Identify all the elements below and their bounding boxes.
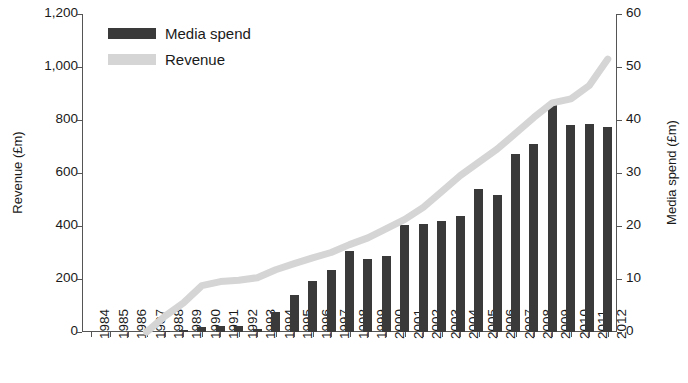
y-axis-right-tickmark: [617, 14, 622, 15]
x-axis-tickmark: [368, 332, 369, 337]
x-axis-tickmark: [128, 332, 129, 337]
x-axis-tickmark: [294, 332, 295, 337]
y-axis-right-tickmark: [617, 120, 622, 121]
y-axis-left-tickmark: [77, 332, 82, 333]
x-axis-tickmark: [110, 332, 111, 337]
legend-swatch-revenue: [108, 54, 156, 65]
legend-label-media-spend: Media spend: [165, 25, 251, 42]
x-axis-tickmark: [220, 332, 221, 337]
x-axis-tickmark: [257, 332, 258, 337]
x-axis-tickmark: [571, 332, 572, 337]
x-axis-tickmark: [350, 332, 351, 337]
y-axis-right-tickmark: [617, 67, 622, 68]
y-axis-right-tickmark: [617, 226, 622, 227]
y-axis-left-tick-label: 0: [0, 323, 78, 338]
y-axis-left-tick-label: 600: [0, 164, 78, 179]
x-axis-tickmark: [405, 332, 406, 337]
x-axis-tickmark: [534, 332, 535, 337]
x-axis-tickmark: [313, 332, 314, 337]
y-axis-left-tick-label: 400: [0, 217, 78, 232]
x-axis-tickmark: [589, 332, 590, 337]
x-axis-tickmark: [497, 332, 498, 337]
x-axis-tickmark: [331, 332, 332, 337]
y-axis-right-tick-label: 20: [626, 217, 666, 232]
x-axis-tickmark: [276, 332, 277, 337]
y-axis-right-tickmark: [617, 173, 622, 174]
y-axis-right-tickmark: [617, 332, 622, 333]
x-axis-tickmark: [202, 332, 203, 337]
legend-item-revenue: Revenue: [108, 46, 251, 72]
y-axis-right-tick-label: 0: [626, 323, 666, 338]
x-axis-tickmark: [516, 332, 517, 337]
x-axis-tickmark: [386, 332, 387, 337]
x-axis-tickmark: [165, 332, 166, 337]
legend-item-media-spend: Media spend: [108, 20, 251, 46]
y-axis-left-tick-label: 1,000: [0, 58, 78, 73]
x-axis-tickmark: [183, 332, 184, 337]
x-axis-tickmark: [423, 332, 424, 337]
y-axis-left-tick-label: 200: [0, 270, 78, 285]
y-axis-right-tick-label: 30: [626, 164, 666, 179]
y-axis-right-tick-label: 40: [626, 111, 666, 126]
media-spend-revenue-chart: Revenue (£m) Media spend (£m) 0200400600…: [0, 0, 688, 383]
y-axis-right-tick-label: 50: [626, 58, 666, 73]
x-axis-tickmark: [91, 332, 92, 337]
x-axis-tickmark: [552, 332, 553, 337]
x-axis-tickmark: [479, 332, 480, 337]
y-axis-left-tick-label: 1,200: [0, 5, 78, 20]
legend: Media spend Revenue: [108, 20, 251, 72]
x-axis-tickmark: [460, 332, 461, 337]
y-axis-right-tickmark: [617, 279, 622, 280]
y-axis-right-tick-label: 60: [626, 5, 666, 20]
y-axis-right-tick-label: 10: [626, 270, 666, 285]
legend-label-revenue: Revenue: [165, 51, 225, 68]
y-axis-left-tick-label: 800: [0, 111, 78, 126]
x-axis-tickmark: [608, 332, 609, 337]
x-axis-tickmark: [239, 332, 240, 337]
x-axis-tickmark: [442, 332, 443, 337]
legend-swatch-media-spend: [108, 28, 156, 39]
